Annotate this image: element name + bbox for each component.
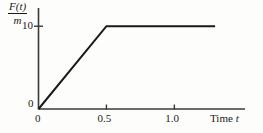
y-axis-label-numerator: F(t) [8, 1, 27, 14]
data-line-force-per-mass [39, 26, 216, 109]
x-axis-title: Timet [210, 113, 239, 124]
y-tick-label-10: 10 [22, 20, 33, 31]
chart-figure: F(t) m 10 0 0 0.5 1.0 Timet [0, 0, 263, 133]
y-origin-label: 0 [28, 98, 34, 109]
x-tick-label-1-0: 1.0 [165, 113, 179, 124]
x-axis-title-variable: t [233, 112, 239, 124]
x-tick-label-0: 0 [35, 113, 41, 124]
x-tick-label-0-5: 0.5 [97, 113, 111, 124]
x-axis-title-text: Time [210, 112, 233, 124]
